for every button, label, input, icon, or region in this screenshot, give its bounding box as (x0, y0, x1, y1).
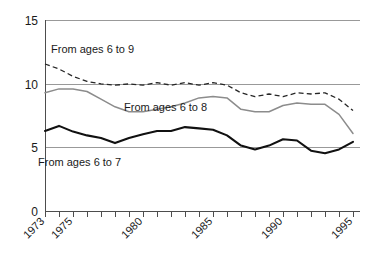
y-tick-labels: 15 10 5 0 (25, 14, 39, 219)
annotation-ages-6-to-7: From ages 6 to 7 (38, 156, 121, 168)
xtick-label-1973: 1973 (21, 215, 47, 241)
xtick-label-1975: 1975 (49, 215, 75, 241)
ytick-label-5: 5 (31, 141, 38, 155)
xtick-label-1980: 1980 (119, 215, 145, 241)
ytick-label-15: 15 (25, 14, 39, 28)
ytick-label-10: 10 (25, 78, 39, 92)
x-tick-labels: 1973 1975 1980 1985 1990 1995 (21, 215, 355, 241)
annotation-ages-6-to-8: From ages 6 to 8 (124, 101, 207, 113)
annotation-ages-6-to-9: From ages 6 to 9 (51, 43, 134, 55)
xtick-label-1995: 1995 (329, 215, 355, 241)
chart-canvas: 15 10 5 0 1973 1975 1980 1985 1990 1995 … (0, 0, 383, 260)
xtick-label-1985: 1985 (189, 215, 215, 241)
line-chart: 15 10 5 0 1973 1975 1980 1985 1990 1995 … (0, 0, 383, 260)
series-line-ages-6-to-7 (45, 126, 353, 153)
series-annotations: From ages 6 to 9 From ages 6 to 8 From a… (38, 43, 207, 168)
xtick-label-1990: 1990 (259, 215, 285, 241)
